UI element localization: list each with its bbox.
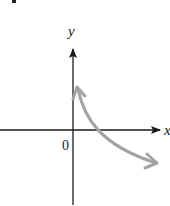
graph: y x 0 xyxy=(0,0,170,206)
curve xyxy=(78,89,156,163)
y-axis-label: y xyxy=(66,23,75,39)
cropped-glyph-fragment xyxy=(12,0,16,3)
origin-label: 0 xyxy=(62,138,69,153)
x-axis-label: x xyxy=(163,122,170,138)
